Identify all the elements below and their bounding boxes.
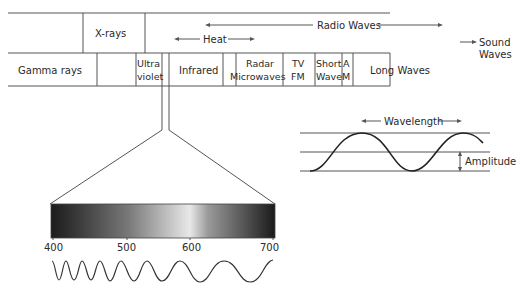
band-ultraviolet-line1: Ultra (137, 58, 160, 69)
band-ultraviolet-line2: violet (137, 71, 163, 82)
scale-tick-400: 400 (44, 242, 63, 253)
band-heat: Heat (203, 34, 227, 45)
band-am-line2: M (342, 71, 350, 82)
band-fm: FM (291, 71, 305, 82)
band-long-waves: Long Waves (370, 65, 430, 76)
band-tv: TV (292, 58, 304, 69)
band-radio-waves: Radio Waves (317, 20, 381, 31)
band-infrared: Infrared (179, 65, 218, 76)
visible-spectrum-bar (51, 204, 275, 238)
band-microwaves: Microwaves (230, 71, 286, 82)
sound-waves-line1: Sound (479, 37, 511, 48)
scale-tick-500: 500 (117, 242, 136, 253)
band-gamma-rays: Gamma rays (18, 65, 82, 76)
band-short-wave-line1: Short (316, 58, 342, 69)
wavelength-label: Wavelength (384, 116, 443, 127)
sound-waves-line2: Waves (479, 49, 512, 60)
amplitude-label: Amplitude (465, 156, 516, 167)
scale-tick-700: 700 (260, 242, 279, 253)
band-xrays: X-rays (95, 28, 126, 39)
band-radar-line1: Radar (246, 58, 274, 69)
band-short-wave-line2: Wave (316, 71, 342, 82)
scale-tick-600: 600 (182, 242, 201, 253)
band-am-line1: A (343, 58, 350, 69)
